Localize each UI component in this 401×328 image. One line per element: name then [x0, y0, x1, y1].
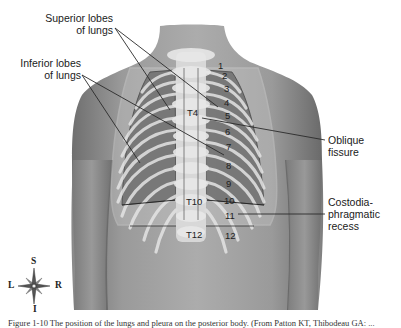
rib-number: 9 — [226, 178, 231, 189]
rib-cage — [111, 48, 277, 252]
vertebra-label-t4: T4 — [187, 107, 198, 118]
compass-superior: S — [31, 256, 36, 266]
rib-number: 3 — [224, 83, 229, 94]
label-oblique-fissure: Oblique fissure — [328, 134, 364, 158]
rib-number: 8 — [226, 160, 231, 171]
label-inferior-lobes: Inferior lobes of lungs — [8, 57, 81, 81]
rib-number: 4 — [224, 97, 229, 108]
rib-number: 5 — [225, 110, 230, 121]
compass-inferior: I — [33, 304, 37, 314]
compass-rose: S I L R — [6, 258, 62, 314]
rib-number: 10 — [224, 195, 235, 206]
compass-right: R — [55, 280, 62, 290]
figure-caption: Figure 1-10 The position of the lungs an… — [8, 318, 375, 328]
rib-number: 11 — [225, 210, 235, 221]
rib-number: 12 — [225, 230, 236, 241]
anatomy-figure: Superior lobes of lungs Inferior lobes o… — [0, 0, 401, 328]
vertebra-label-t10: T10 — [186, 196, 202, 207]
vertebra-label-t12: T12 — [186, 229, 202, 240]
label-superior-lobes: Superior lobes of lungs — [38, 12, 113, 36]
rib-number: 6 — [225, 126, 230, 137]
rib-number: 2 — [222, 70, 227, 81]
rib-number: 7 — [226, 141, 231, 152]
compass-left: L — [8, 280, 14, 290]
label-costodiaphragmatic-recess: Costodia- phragmatic recess — [328, 196, 380, 232]
